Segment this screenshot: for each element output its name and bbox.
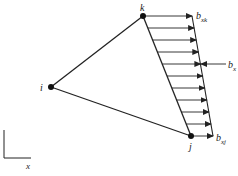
label-bxj: bxj [216,132,226,146]
node-i [48,84,54,90]
label-bxk: bxk [196,10,208,24]
edge-i-k [51,16,143,87]
edge-i-j [51,87,191,136]
triangle-element-diagram: k i j bxk bx bxj x [0,0,238,176]
node-k [140,13,146,19]
node-label-k: k [140,2,145,13]
node-j [188,133,194,139]
node-label-i: i [40,82,43,93]
x-axis-label: x [25,161,30,171]
coordinate-axes [4,130,31,158]
node-label-j: j [187,141,192,152]
label-bx: bx [228,59,237,73]
distributed-load-arrows [143,16,213,136]
